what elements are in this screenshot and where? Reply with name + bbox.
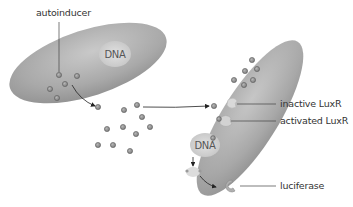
activated-luxr-protein xyxy=(220,116,232,127)
luciferase-label: luciferase xyxy=(280,180,325,191)
inactive-luxr-label: inactive LuxR xyxy=(280,98,342,109)
autoinducer-label: autoinducer xyxy=(36,7,91,18)
quorum-sensing-diagram: DNA DNA xyxy=(0,0,353,207)
activated-luxr-label: activated LuxR xyxy=(280,115,349,126)
right-dna-label: DNA xyxy=(194,140,216,151)
left-dna-label: DNA xyxy=(104,49,126,60)
arrow-import xyxy=(143,106,209,107)
inactive-luxr-protein xyxy=(227,98,237,108)
extracellular-autoinducer-molecules xyxy=(95,102,152,153)
